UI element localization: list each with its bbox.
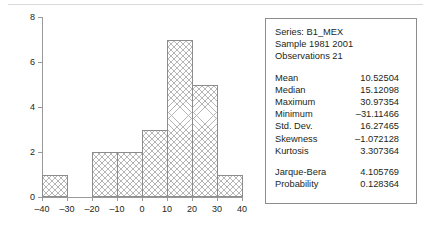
plot-area: 02468 –40–30–20–10010203040: [42, 17, 242, 197]
statistic-row: Median15.12098: [275, 84, 416, 96]
x-tick-label: 0: [139, 205, 144, 214]
histogram-bar: [192, 85, 218, 198]
statistic-row: Mean10.52504: [275, 72, 416, 84]
histogram-bar: [92, 152, 118, 197]
y-tick-label: 8: [30, 13, 35, 22]
x-tick-label: –30: [59, 205, 74, 214]
statistic-row: Std. Dev.16.27465: [275, 120, 416, 132]
y-tick-mark: [38, 62, 42, 63]
x-tick-mark: [242, 197, 243, 201]
x-tick-label: 30: [212, 205, 222, 214]
x-tick-mark: [192, 197, 193, 201]
descriptive-statistics-list: Mean10.52504Median15.12098Maximum30.9735…: [275, 72, 416, 157]
y-tick-label: 6: [30, 58, 35, 67]
stat-label: Skewness: [275, 133, 337, 145]
test-row: Probability0.128364: [275, 178, 416, 190]
statistic-row: Skewness–1.072128: [275, 133, 416, 145]
histogram-bar: [217, 175, 243, 198]
x-tick-label: –10: [109, 205, 124, 214]
sample-range-label: Sample 1981 2001: [275, 38, 416, 50]
x-tick-label: –40: [34, 205, 49, 214]
panel-spacer-2: [275, 157, 416, 166]
stat-value: 3.307364: [337, 145, 399, 157]
stat-value: 0.128364: [337, 178, 399, 190]
statistics-panel: Series: B1_MEX Sample 1981 2001 Observat…: [265, 18, 417, 204]
series-name-label: Series: B1_MEX: [275, 26, 416, 38]
panel-spacer-1: [275, 63, 416, 72]
y-tick-label: 0: [30, 193, 35, 202]
x-tick-mark: [142, 197, 143, 201]
stat-label: Probability: [275, 178, 337, 190]
x-tick-mark: [42, 197, 43, 201]
stat-label: Median: [275, 84, 337, 96]
test-row: Jarque-Bera4.105769: [275, 166, 416, 178]
x-tick-mark: [67, 197, 68, 201]
x-tick-label: 40: [237, 205, 247, 214]
stat-label: Kurtosis: [275, 145, 337, 157]
histogram-bar: [42, 175, 68, 198]
stat-label: Jarque-Bera: [275, 166, 337, 178]
stat-value: 30.97354: [337, 96, 399, 108]
stat-label: Minimum: [275, 108, 337, 120]
stat-value: 16.27465: [337, 120, 399, 132]
x-tick-mark: [117, 197, 118, 201]
statistic-row: Maximum30.97354: [275, 96, 416, 108]
x-tick-label: –20: [84, 205, 99, 214]
x-tick-label: 10: [162, 205, 172, 214]
x-tick-label: 20: [187, 205, 197, 214]
stat-value: 4.105769: [337, 166, 399, 178]
statistic-row: Kurtosis3.307364: [275, 145, 416, 157]
observations-label: Observations 21: [275, 50, 416, 62]
y-tick-mark: [38, 152, 42, 153]
x-tick-mark: [167, 197, 168, 201]
histogram-bar: [117, 152, 143, 197]
y-tick-label: 2: [30, 148, 35, 157]
stat-value: –31.11466: [337, 108, 399, 120]
normality-test-list: Jarque-Bera4.105769Probability0.128364: [275, 166, 416, 190]
histogram-bar: [167, 40, 193, 198]
y-axis-line: [42, 17, 43, 197]
histogram-bar: [142, 130, 168, 198]
x-tick-mark: [92, 197, 93, 201]
stat-label: Std. Dev.: [275, 120, 337, 132]
stat-label: Mean: [275, 72, 337, 84]
x-tick-mark: [217, 197, 218, 201]
stat-value: –1.072128: [337, 133, 399, 145]
top-divider: [8, 4, 423, 5]
y-tick-mark: [38, 17, 42, 18]
stat-label: Maximum: [275, 96, 337, 108]
stat-value: 10.52504: [337, 72, 399, 84]
y-tick-label: 4: [30, 103, 35, 112]
statistic-row: Minimum–31.11466: [275, 108, 416, 120]
histogram-figure: 02468 –40–30–20–10010203040 Series: B1_M…: [0, 0, 431, 230]
y-tick-mark: [38, 107, 42, 108]
stat-value: 15.12098: [337, 84, 399, 96]
